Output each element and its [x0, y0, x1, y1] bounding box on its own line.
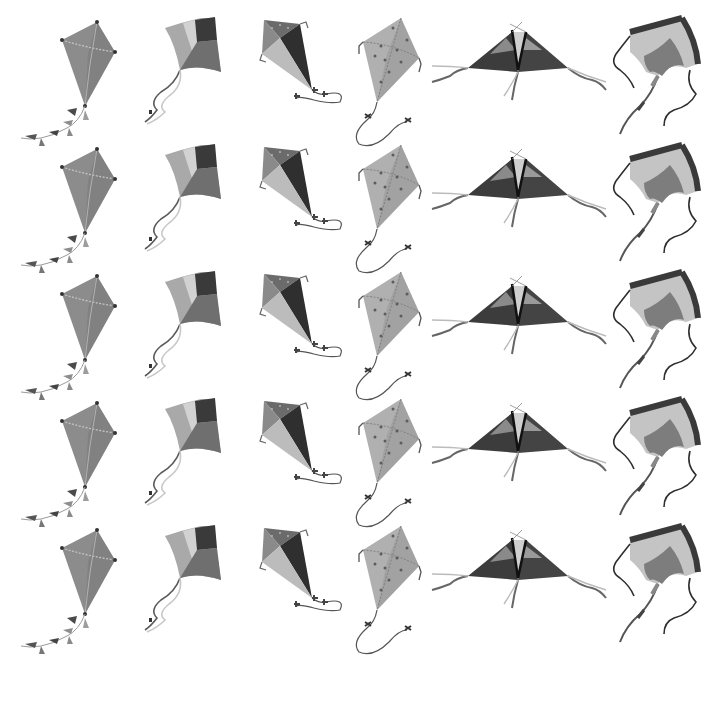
kite-delta-graphic [430, 518, 610, 618]
kite-patchwork-curved-graphic [135, 264, 235, 379]
kite-dotted-diamond-graphic [345, 518, 435, 658]
kite-diamond-ribbon-graphic [15, 391, 125, 521]
kite-four-panel-bow-icon [250, 518, 350, 613]
kite-patchwork-curved-graphic [135, 391, 235, 506]
kite-delta-icon [430, 10, 610, 110]
kite-stingray-graphic [600, 264, 710, 394]
kite-four-panel-bow-graphic [250, 391, 350, 486]
kite-four-panel-bow-graphic [250, 137, 350, 232]
kite-dotted-diamond-graphic [345, 10, 435, 150]
kite-four-panel-bow-icon [250, 391, 350, 486]
kite-stingray-icon [600, 518, 710, 648]
kite-diamond-ribbon-graphic [15, 137, 125, 267]
kite-four-panel-bow-graphic [250, 518, 350, 613]
kite-patchwork-curved-graphic [135, 10, 235, 125]
kite-dotted-diamond-graphic [345, 264, 435, 404]
kite-diamond-ribbon-icon [15, 518, 125, 648]
kite-stingray-graphic [600, 391, 710, 521]
kite-dotted-diamond-graphic [345, 137, 435, 277]
kite-delta-icon [430, 518, 610, 618]
kite-patchwork-curved-graphic [135, 518, 235, 633]
kite-patchwork-curved-icon [135, 518, 235, 633]
kite-four-panel-bow-icon [250, 264, 350, 359]
kite-patchwork-curved-graphic [135, 137, 235, 252]
kite-diamond-ribbon-icon [15, 137, 125, 267]
kite-patchwork-curved-icon [135, 391, 235, 506]
kite-four-panel-bow-graphic [250, 264, 350, 359]
kite-diamond-ribbon-icon [15, 10, 125, 140]
kite-diamond-ribbon-graphic [15, 518, 125, 648]
kite-dotted-diamond-icon [345, 518, 435, 658]
kite-stingray-graphic [600, 137, 710, 267]
kite-diamond-ribbon-icon [15, 391, 125, 521]
kite-stingray-graphic [600, 518, 710, 648]
kite-four-panel-bow-icon [250, 137, 350, 232]
kite-stingray-icon [600, 137, 710, 267]
kite-dotted-diamond-icon [345, 10, 435, 150]
kite-stingray-icon [600, 264, 710, 394]
kite-delta-icon [430, 391, 610, 491]
kite-diamond-ribbon-icon [15, 264, 125, 394]
kite-stingray-icon [600, 10, 710, 140]
kite-delta-graphic [430, 137, 610, 237]
kite-patchwork-curved-icon [135, 137, 235, 252]
kite-dotted-diamond-icon [345, 264, 435, 404]
kite-delta-graphic [430, 264, 610, 364]
kite-delta-icon [430, 264, 610, 364]
kite-four-panel-bow-graphic [250, 10, 350, 105]
kite-four-panel-bow-icon [250, 10, 350, 105]
kite-stingray-graphic [600, 10, 710, 140]
kite-dotted-diamond-graphic [345, 391, 435, 531]
kite-delta-graphic [430, 391, 610, 491]
kite-delta-graphic [430, 10, 610, 110]
kite-stingray-icon [600, 391, 710, 521]
kite-pattern [0, 0, 710, 726]
kite-dotted-diamond-icon [345, 137, 435, 277]
kite-patchwork-curved-icon [135, 10, 235, 125]
kite-delta-icon [430, 137, 610, 237]
kite-diamond-ribbon-graphic [15, 264, 125, 394]
kite-dotted-diamond-icon [345, 391, 435, 531]
kite-diamond-ribbon-graphic [15, 10, 125, 140]
kite-patchwork-curved-icon [135, 264, 235, 379]
